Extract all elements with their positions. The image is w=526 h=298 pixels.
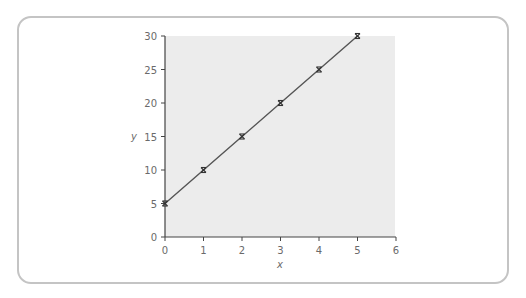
y-tick-label: 30 xyxy=(144,31,157,42)
x-tick-label: 3 xyxy=(277,245,283,256)
y-tick-label: 25 xyxy=(144,65,157,76)
y-tick-label: 20 xyxy=(144,98,157,109)
x-tick-label: 6 xyxy=(393,245,399,256)
x-tick-label: 0 xyxy=(162,245,168,256)
y-tick-label: 15 xyxy=(144,132,157,143)
y-ticks: 0 5 10 15 20 25 30 xyxy=(144,31,165,243)
x-tick-label: 1 xyxy=(200,245,206,256)
x-tick-label: 5 xyxy=(354,245,360,256)
x-tick-label: 4 xyxy=(316,245,322,256)
x-tick-label: 2 xyxy=(239,245,245,256)
x-axis-label: x xyxy=(276,259,283,270)
y-tick-label: 5 xyxy=(151,199,157,210)
line-chart: 0 5 10 15 20 25 30 0 1 2 3 4 5 6 x y xyxy=(0,0,526,298)
y-axis-label: y xyxy=(130,131,138,142)
x-ticks: 0 1 2 3 4 5 6 xyxy=(162,237,399,256)
y-tick-label: 0 xyxy=(151,232,157,243)
plot-area xyxy=(165,36,395,237)
y-tick-label: 10 xyxy=(144,165,157,176)
